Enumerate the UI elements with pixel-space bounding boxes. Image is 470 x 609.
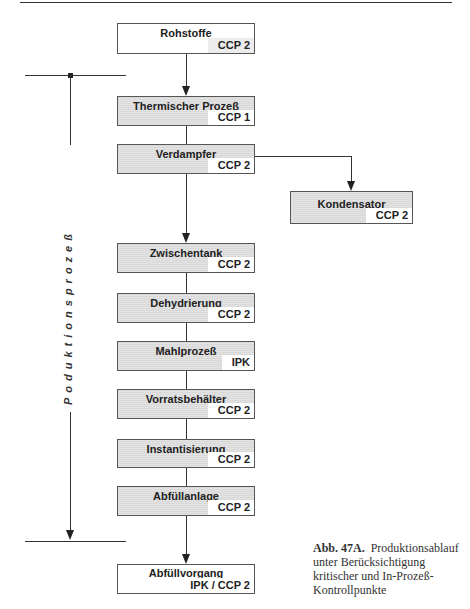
connector [186, 54, 187, 88]
node-code: IPK / CCP 2 [180, 578, 254, 593]
node-thermischer-prozess: Thermischer Prozeß CCP 1 [117, 96, 255, 126]
figure-caption: Abb. 47A. Produktionsablauf unter Berück… [313, 541, 470, 597]
connector [186, 516, 187, 556]
node-code: CCP 2 [208, 257, 254, 272]
bracket-line-lower [70, 412, 71, 532]
node-dehydrierung: Dehydrierung CCP 2 [117, 293, 255, 323]
node-verdampfer: Verdampfer CCP 2 [117, 144, 255, 174]
caption-label: Abb. 47A. [313, 541, 365, 555]
connector [186, 419, 187, 439]
node-abfuellanlage: Abfüllanlage CCP 2 [117, 486, 255, 516]
top-rule [20, 2, 452, 3]
node-code: IPK [222, 355, 254, 370]
node-code: CCP 2 [208, 452, 254, 467]
arrow-icon [182, 233, 190, 243]
connector [186, 126, 187, 144]
bracket-top-line [25, 75, 126, 76]
node-code: CCP 2 [208, 307, 254, 322]
node-rohstoffe: Rohstoffe CCP 2 [117, 23, 255, 54]
arrow-icon [182, 86, 190, 96]
node-code: CCP 2 [366, 208, 412, 223]
node-mahlprozess: Mahlprozeß IPK [117, 341, 255, 371]
node-code: CCP 2 [208, 158, 254, 173]
connector [186, 174, 187, 234]
node-code: CCP 2 [208, 500, 254, 515]
connector [186, 371, 187, 389]
bracket-bottom-line [25, 541, 126, 542]
connector-branch [351, 156, 352, 182]
node-vorratsbehaelter: Vorratsbehälter CCP 2 [117, 389, 255, 419]
node-zwischentank: Zwischentank CCP 2 [117, 243, 255, 273]
node-kondensator: Kondensator CCP 2 [290, 191, 413, 224]
node-abfuellvorgang: Abfüllvorgang IPK / CCP 2 [117, 564, 255, 594]
connector [186, 323, 187, 341]
connector [186, 468, 187, 486]
bracket-line-upper [70, 75, 71, 145]
side-label: Poduktionsprozeß [62, 229, 74, 405]
connector [186, 273, 187, 293]
arrow-icon [347, 181, 355, 191]
bracket-arrow-icon [66, 530, 74, 540]
node-code: CCP 2 [208, 403, 254, 418]
node-code: CCP 2 [208, 38, 254, 53]
connector-branch [255, 156, 352, 157]
node-code: CCP 1 [208, 110, 254, 125]
node-instantisierung: Instantisierung CCP 2 [117, 439, 255, 468]
arrow-icon [182, 554, 190, 564]
